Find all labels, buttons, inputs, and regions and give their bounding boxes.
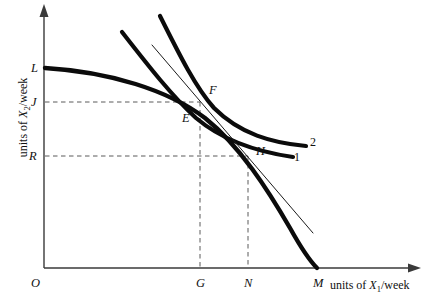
x-axis-title-prefix: units of <box>330 278 369 292</box>
label-M: M <box>313 277 323 290</box>
y-axis-title-suffix: /week <box>16 78 30 107</box>
tangent-price-line <box>152 45 313 233</box>
curve-label-2: 2 <box>310 136 316 148</box>
label-F: F <box>209 84 217 97</box>
ppf-indifference-figure: units of X2/week units of X1/week L J R … <box>0 0 437 304</box>
x-axis-arrow-icon <box>408 264 421 273</box>
ppf-curve <box>45 68 317 268</box>
label-R: R <box>29 150 37 163</box>
y-axis-title: units of X2/week <box>16 78 30 158</box>
indifference-curve-2 <box>160 16 306 146</box>
label-L: L <box>31 62 38 75</box>
x-axis-title: units of X1/week <box>330 279 410 294</box>
label-G: G <box>196 277 205 290</box>
x-axis-title-suffix: /week <box>381 278 410 292</box>
label-J: J <box>31 96 37 109</box>
y-axis-arrow-icon <box>40 4 49 17</box>
figure-canvas <box>0 0 437 304</box>
label-E: E <box>182 112 190 125</box>
y-axis-title-var: X <box>16 111 30 118</box>
label-O: O <box>31 277 40 290</box>
x-axis-title-var: X <box>369 278 376 292</box>
label-H: H <box>256 145 265 158</box>
label-N: N <box>244 277 252 290</box>
y-axis-title-prefix: units of <box>16 118 30 157</box>
curve-label-1: 1 <box>294 151 300 163</box>
